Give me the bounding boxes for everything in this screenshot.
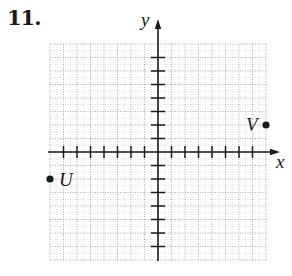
coordinate-plane: VU x y [0,0,292,276]
axes [48,19,280,261]
y-axis-label: y [139,9,150,30]
y-axis-arrow-icon [155,19,161,29]
point-u-dot [46,175,53,182]
point-v-dot [262,121,269,128]
point-u-label: U [59,169,74,190]
x-axis-label: x [275,151,285,172]
